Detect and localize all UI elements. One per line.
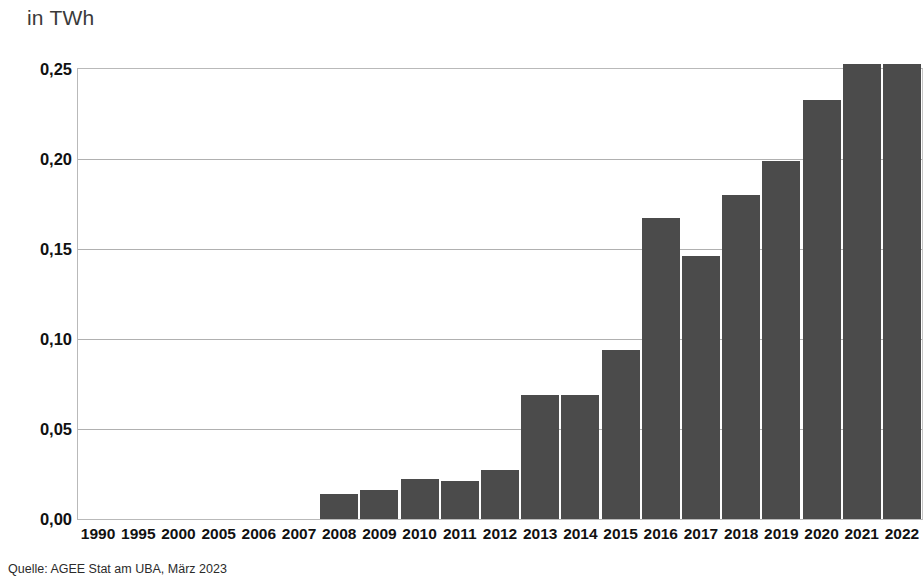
bar-slot (882, 69, 922, 519)
bar-slot (440, 69, 480, 519)
bar[interactable] (602, 350, 640, 519)
bar[interactable] (682, 256, 720, 519)
bar-slot (359, 69, 399, 519)
bars-layer (78, 69, 922, 519)
x-tick-label: 2000 (161, 525, 195, 543)
bar-slot (600, 69, 640, 519)
x-tick-label: 2012 (483, 525, 517, 543)
bar-slot (761, 69, 801, 519)
y-tick-label: 0,00 (6, 510, 72, 529)
x-tick-label: 2017 (684, 525, 718, 543)
bar-slot (560, 69, 600, 519)
bar-slot (158, 69, 198, 519)
bar[interactable] (803, 100, 841, 519)
bar-slot (801, 69, 841, 519)
x-tick-label: 2010 (402, 525, 436, 543)
bar-slot (78, 69, 118, 519)
x-tick-label: 2009 (362, 525, 396, 543)
x-tick-label: 2011 (443, 525, 477, 543)
bar-slot (842, 69, 882, 519)
bar-slot (721, 69, 761, 519)
bar[interactable] (843, 64, 881, 519)
bar-slot (400, 69, 440, 519)
x-tick-label: 2018 (724, 525, 758, 543)
bar-slot (239, 69, 279, 519)
bar-slot (480, 69, 520, 519)
bar[interactable] (481, 470, 519, 519)
x-tick-label: 2021 (844, 525, 878, 543)
y-tick-label: 0,20 (6, 150, 72, 169)
x-tick-label: 2005 (201, 525, 235, 543)
bar[interactable] (883, 64, 921, 519)
x-tick-label: 2019 (764, 525, 798, 543)
bar-slot (681, 69, 721, 519)
y-tick-label: 0,10 (6, 330, 72, 349)
y-tick-label: 0,15 (6, 240, 72, 259)
x-axis-labels: 1990199520002005200620072008200920102011… (78, 525, 922, 551)
bar-slot (118, 69, 158, 519)
x-tick-label: 1990 (81, 525, 115, 543)
y-tick-label: 0,25 (6, 60, 72, 79)
y-axis-labels: 0,000,050,100,150,200,25 (0, 68, 72, 520)
bar[interactable] (521, 395, 559, 519)
x-tick-label: 1995 (121, 525, 155, 543)
chart-unit-title: in TWh (27, 6, 94, 30)
bar-slot (199, 69, 239, 519)
bar[interactable] (360, 490, 398, 519)
x-tick-label: 2008 (322, 525, 356, 543)
x-tick-label: 2013 (523, 525, 557, 543)
bar[interactable] (762, 161, 800, 519)
bar[interactable] (401, 479, 439, 519)
bar-slot (520, 69, 560, 519)
bar-slot (279, 69, 319, 519)
x-tick-label: 2016 (644, 525, 678, 543)
bar-slot (641, 69, 681, 519)
bar[interactable] (722, 195, 760, 519)
bar[interactable] (441, 481, 479, 519)
bar[interactable] (320, 494, 358, 519)
x-tick-label: 2006 (242, 525, 276, 543)
x-tick-label: 2022 (885, 525, 919, 543)
y-tick-label: 0,05 (6, 420, 72, 439)
bar[interactable] (642, 218, 680, 519)
x-tick-label: 2015 (603, 525, 637, 543)
bar-slot (319, 69, 359, 519)
source-note: Quelle: AGEE Stat am UBA, März 2023 (8, 562, 227, 576)
bar[interactable] (561, 395, 599, 519)
bar-chart: in TWh 0,000,050,100,150,200,25 19901995… (0, 0, 924, 583)
x-tick-label: 2007 (282, 525, 316, 543)
x-tick-label: 2014 (563, 525, 597, 543)
x-tick-label: 2020 (804, 525, 838, 543)
